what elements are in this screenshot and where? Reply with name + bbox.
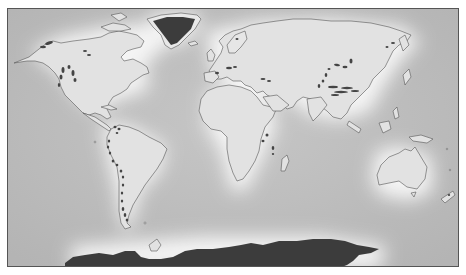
glacier-rockies bbox=[62, 67, 65, 73]
glacier-patagonia bbox=[122, 207, 125, 211]
world-map bbox=[8, 9, 459, 267]
island-hawaii bbox=[94, 141, 96, 143]
glacier-andes-north bbox=[114, 126, 117, 128]
glacier-pyrenees bbox=[215, 72, 219, 74]
glacier-pamir bbox=[325, 73, 328, 77]
glacier-siberia bbox=[391, 42, 395, 44]
glacier-himalaya bbox=[328, 86, 338, 88]
glacier-canadian-arctic bbox=[83, 50, 87, 52]
glacier-andes-central bbox=[108, 140, 110, 143]
island-south-georgia bbox=[144, 222, 146, 224]
glacier-alps bbox=[226, 67, 232, 69]
glacier-scandinavia bbox=[236, 38, 239, 40]
glacier-caucasus bbox=[261, 78, 266, 80]
glacier-east-africa bbox=[266, 134, 269, 137]
world-map-frame bbox=[7, 8, 459, 267]
glacier-new-zealand bbox=[448, 194, 450, 196]
